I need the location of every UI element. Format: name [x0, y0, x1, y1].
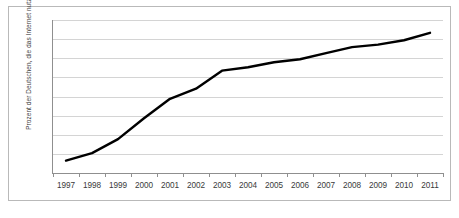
x-axis-tick-label: 2002 [183, 181, 209, 190]
x-axis-line [52, 173, 443, 174]
x-axis-tick [235, 173, 236, 177]
x-axis-tick [105, 173, 106, 177]
x-axis-tick-label: 2005 [261, 181, 287, 190]
x-axis-tick [443, 173, 444, 177]
x-axis-tick [79, 173, 80, 177]
x-axis-tick-label: 2004 [235, 181, 261, 190]
x-axis-tick-label: 2006 [287, 181, 313, 190]
x-axis-tick-label: 2008 [339, 181, 365, 190]
x-axis-tick-label: 1999 [105, 181, 131, 190]
plot-area: 01020304050607080 1997199819992000200120… [53, 20, 443, 173]
x-axis-tick [391, 173, 392, 177]
x-axis-tick-label: 2011 [417, 181, 443, 190]
x-axis-tick-label: 1998 [79, 181, 105, 190]
x-axis-tick [339, 173, 340, 177]
x-axis-tick [131, 173, 132, 177]
x-axis-tick-label: 2000 [131, 181, 157, 190]
x-axis-tick [287, 173, 288, 177]
x-axis-tick [183, 173, 184, 177]
x-axis-tick [261, 173, 262, 177]
x-axis-tick-label: 2001 [157, 181, 183, 190]
chart-container: Prozent der Deutschen, die das Internet … [8, 6, 451, 201]
x-axis-tick-label: 2009 [365, 181, 391, 190]
x-axis-tick-label: 2010 [391, 181, 417, 190]
x-axis-tick-label: 1997 [53, 181, 79, 190]
series-polyline [66, 33, 430, 161]
x-axis-tick [157, 173, 158, 177]
x-axis-tick-label: 2003 [209, 181, 235, 190]
x-axis-tick [365, 173, 366, 177]
x-axis-tick [313, 173, 314, 177]
x-axis-tick [53, 173, 54, 177]
y-axis-title: Prozent der Deutschen, die das Internet … [25, 0, 32, 136]
x-axis-tick [209, 173, 210, 177]
x-axis-tick-label: 2007 [313, 181, 339, 190]
line-series [53, 20, 443, 173]
chart-title [9, 0, 452, 7]
x-axis-tick [417, 173, 418, 177]
